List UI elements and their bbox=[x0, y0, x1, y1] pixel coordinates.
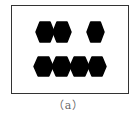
hexagon-shape bbox=[36, 22, 54, 42]
bottom-row bbox=[34, 57, 106, 76]
hexagon-shape bbox=[34, 57, 53, 76]
hexagon-shape bbox=[53, 22, 71, 42]
hexagon-shape bbox=[70, 57, 89, 76]
top-row bbox=[36, 22, 104, 42]
figure-caption: （a） bbox=[0, 96, 137, 112]
hexagon-shape bbox=[87, 22, 104, 42]
hexagon-shape bbox=[52, 57, 71, 76]
hexagon-shape bbox=[88, 57, 106, 76]
